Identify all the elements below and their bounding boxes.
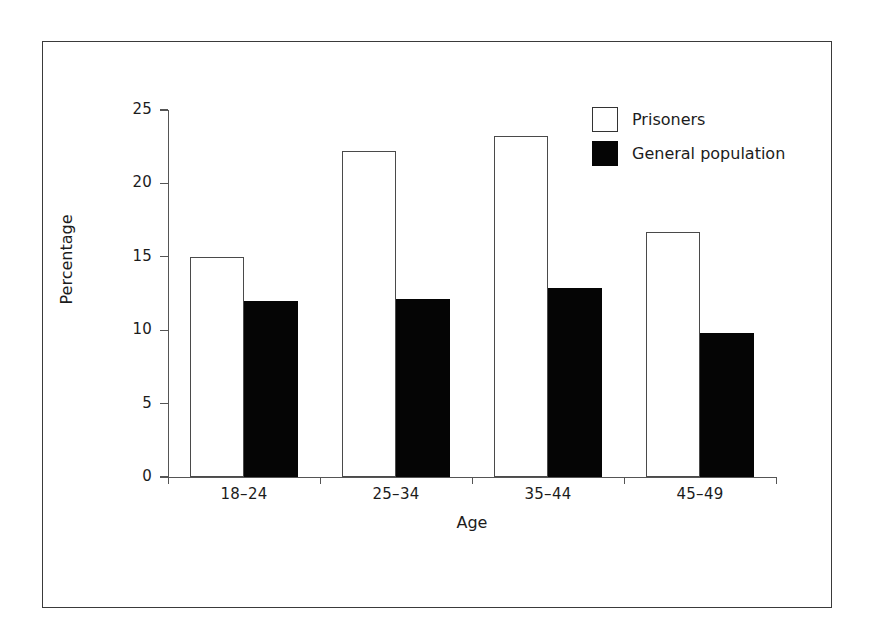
bar-prisoners xyxy=(646,232,700,477)
y-tick-label-wrap: 10 xyxy=(108,320,152,338)
x-tick-label: 45–49 xyxy=(630,485,770,503)
y-tick-mark xyxy=(160,403,168,404)
y-tick-label-wrap: 20 xyxy=(108,173,152,191)
y-tick-label-wrap: 15 xyxy=(108,247,152,265)
bar-general-population xyxy=(244,301,298,477)
x-axis-title: Age xyxy=(168,513,776,532)
y-tick-label: 5 xyxy=(112,394,152,412)
bar-prisoners xyxy=(342,151,396,477)
bar-general-population xyxy=(548,288,602,477)
y-tick-label: 0 xyxy=(112,467,152,485)
y-tick-label: 15 xyxy=(112,247,152,265)
legend-label-general-population: General population xyxy=(632,144,785,163)
y-tick-label: 20 xyxy=(112,173,152,191)
figure-root: 0510152025 18–2425–3435–4445–49 Percenta… xyxy=(0,0,869,628)
y-tick-mark xyxy=(160,476,168,477)
bar-general-population xyxy=(700,333,754,477)
legend-item-general-population: General population xyxy=(592,136,822,170)
y-tick-label: 25 xyxy=(112,100,152,118)
legend-label-prisoners: Prisoners xyxy=(632,110,705,129)
y-axis-line xyxy=(168,110,169,478)
y-tick-mark xyxy=(160,109,168,110)
x-tick-mark xyxy=(776,477,777,484)
y-tick-label: 10 xyxy=(112,320,152,338)
x-tick-mark xyxy=(320,477,321,484)
y-tick-mark xyxy=(160,183,168,184)
bar-prisoners xyxy=(190,257,244,477)
x-tick-mark xyxy=(624,477,625,484)
y-tick-label-wrap: 5 xyxy=(108,394,152,412)
y-axis-title: Percentage xyxy=(57,170,76,350)
x-tick-mark xyxy=(472,477,473,484)
legend-swatch-black-square-icon xyxy=(592,141,618,166)
x-tick-label: 18–24 xyxy=(174,485,314,503)
bar-prisoners xyxy=(494,136,548,477)
chart-legend: Prisoners General population xyxy=(592,102,822,170)
y-tick-mark xyxy=(160,330,168,331)
legend-item-prisoners: Prisoners xyxy=(592,102,822,136)
plot-area: 0510152025 18–2425–3435–4445–49 Percenta… xyxy=(0,0,869,628)
x-tick-mark xyxy=(168,477,169,484)
y-tick-label-wrap: 0 xyxy=(108,467,152,485)
y-tick-label-wrap: 25 xyxy=(108,100,152,118)
legend-swatch-white-square-icon xyxy=(592,107,618,132)
y-tick-mark xyxy=(160,256,168,257)
x-tick-label: 35–44 xyxy=(478,485,618,503)
bar-general-population xyxy=(396,299,450,477)
x-tick-label: 25–34 xyxy=(326,485,466,503)
